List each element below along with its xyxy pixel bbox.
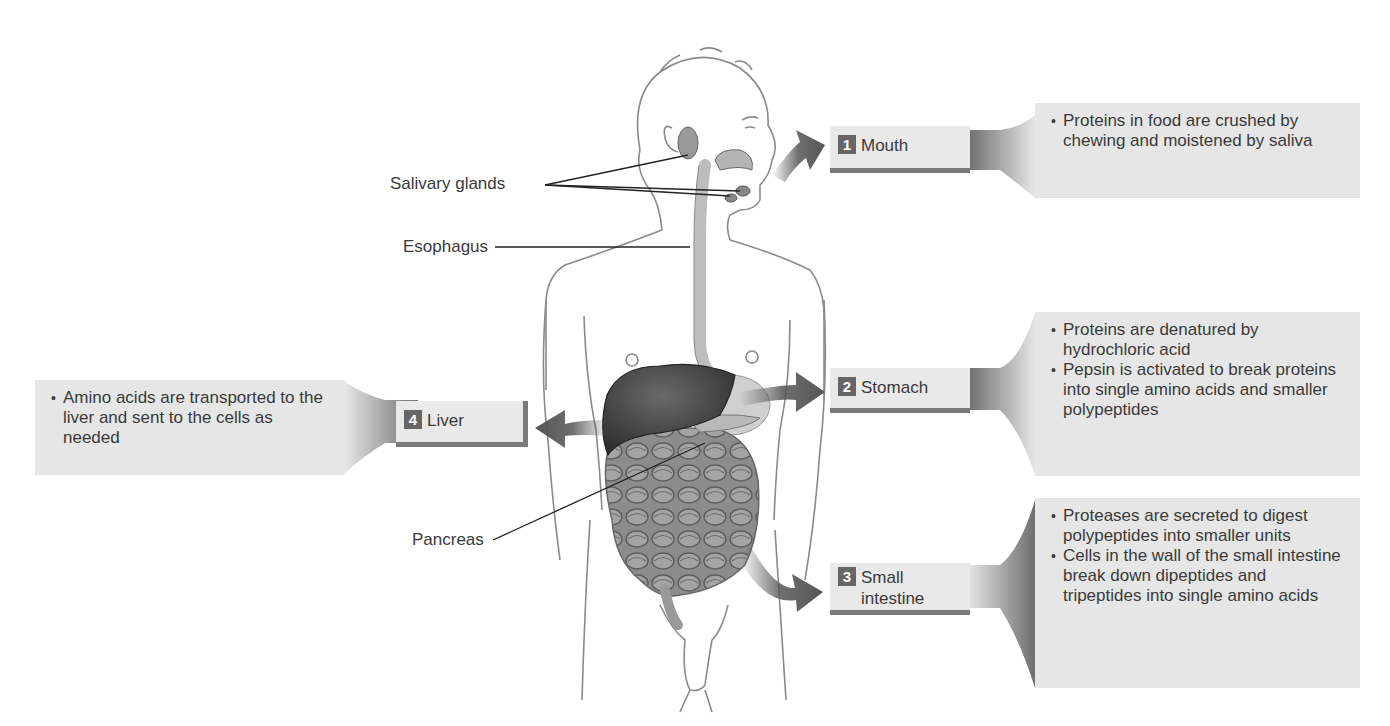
digestive-system-diagram: Salivary glands Esophagus Pancreas 1 Mou… — [0, 0, 1390, 726]
step-3-small-intestine: 3 Small intestine — [830, 563, 970, 615]
step-label: Liver — [427, 410, 464, 431]
step-2-description: Proteins are denatured by hydrochloric a… — [1035, 312, 1360, 476]
description-point: Amino acids are transported to the liver… — [53, 388, 333, 448]
label-pancreas: Pancreas — [412, 530, 484, 550]
step-2-stomach: 2 Stomach — [830, 368, 970, 413]
step-label: Stomach — [861, 377, 928, 398]
description-point: Pepsin is activated to break proteins in… — [1053, 360, 1348, 420]
step-number-badge: 3 — [838, 567, 856, 586]
step-4-liver: 4 Liver — [396, 401, 528, 447]
step-number-badge: 1 — [838, 135, 856, 154]
step-label: Mouth — [861, 135, 908, 156]
step-1-mouth: 1 Mouth — [830, 126, 970, 173]
description-point: Proteases are secreted to digest polypep… — [1053, 506, 1348, 546]
step-4-description: Amino acids are transported to the liver… — [35, 380, 345, 475]
step-label: Small intestine — [861, 567, 924, 609]
description-point: Cells in the wall of the small intestine… — [1053, 546, 1348, 606]
step-number-badge: 2 — [838, 377, 856, 396]
description-point: Proteins are denatured by hydrochloric a… — [1053, 320, 1348, 360]
esophagus-organ — [700, 165, 720, 385]
step-number-badge: 4 — [404, 410, 422, 429]
label-esophagus: Esophagus — [403, 237, 488, 257]
description-point: Proteins in food are crushed by chewing … — [1053, 111, 1348, 151]
step-3-description: Proteases are secreted to digest polypep… — [1035, 498, 1360, 688]
step-1-description: Proteins in food are crushed by chewing … — [1035, 103, 1360, 198]
label-salivary-glands: Salivary glands — [390, 174, 505, 194]
